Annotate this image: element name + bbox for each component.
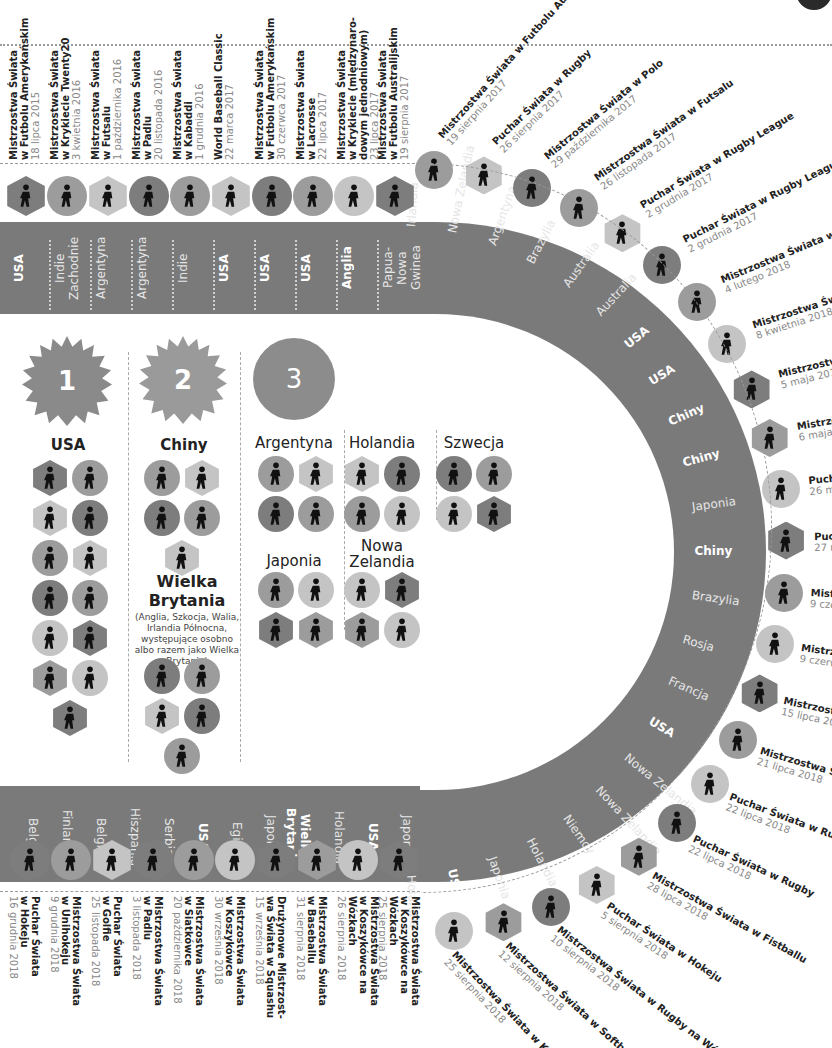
sport-icon <box>133 840 173 880</box>
sport-icon <box>344 572 380 608</box>
event-label: World Baseball Classic 22 marca 2017 <box>213 52 235 160</box>
sport-icon <box>32 660 68 696</box>
rank-3-badge: 3 <box>253 338 335 420</box>
sport-icon <box>258 572 294 608</box>
rank-1-badge: 1 <box>22 336 112 426</box>
rank-1-number: 1 <box>58 366 76 396</box>
rank-2b-country: Wielka Brytania <box>132 572 242 610</box>
event-title: Mistrzostwa Świata w Baseballu <box>306 896 328 1006</box>
rank-3-country-szwecja: Szwecja <box>432 434 516 452</box>
sport-icon <box>532 888 570 926</box>
event-label: Mistrzostwa Świata w Siatkówce 20 paździ… <box>172 896 205 1006</box>
athlete-icon <box>303 617 329 643</box>
sport-icon <box>435 912 473 950</box>
sport-icon <box>184 658 220 694</box>
athlete-icon <box>349 617 375 643</box>
sport-icon <box>344 496 380 532</box>
event-title: Puchar Ubera (badminton) <box>808 462 832 486</box>
rank-3-country-holandia: Holandia <box>340 434 424 452</box>
athlete-icon <box>441 501 467 527</box>
winner-country: Argentyna <box>94 232 126 304</box>
event-date: 19 sierpnia 2017 <box>399 76 410 160</box>
athlete-icon <box>37 585 63 611</box>
rank-1-country: USA <box>20 436 116 454</box>
event-date: 31 sierpnia 2018 <box>295 896 306 980</box>
athlete-icon <box>149 505 175 531</box>
winner-separator <box>336 240 338 310</box>
athlete-icon <box>189 465 215 491</box>
sport-icon <box>32 580 68 616</box>
sport-icon <box>10 840 50 880</box>
athlete-icon <box>626 844 652 870</box>
event-label: Mistrzostwa Świata w Piłce Nożnej15 lipc… <box>781 695 832 757</box>
event-title: Mistrzostwa Świata w Futbolu Amerykański… <box>8 18 30 160</box>
athlete-icon <box>441 918 467 944</box>
athlete-icon <box>13 183 39 209</box>
event-date: 9 czerwca 2018 <box>810 598 832 620</box>
event-label: Mistrzostwa Świata w Koszykówce na Wózka… <box>377 896 421 1006</box>
athlete-icon <box>169 545 195 571</box>
athlete-icon <box>349 577 375 603</box>
event-label: Puchar Ubera (badminton)26 maja 2018 <box>808 462 832 497</box>
event-label: Mistrzostwa Świata w Koszykówce na Wózka… <box>336 896 380 1006</box>
athlete-icon <box>77 465 103 491</box>
sport-icon <box>72 660 108 696</box>
athlete-icon <box>169 743 195 769</box>
athlete-icon <box>37 665 63 691</box>
event-label: Puchar Świata w Golfie 25 listopada 2018 <box>90 896 123 1006</box>
event-title: Mistrzostwa Świata w Padlu <box>142 896 164 1006</box>
sport-icon <box>32 540 68 576</box>
athlete-icon <box>54 183 80 209</box>
event-label: Mistrzostwa Świata w Koszykówce 30 wrześ… <box>213 896 246 1006</box>
athlete-icon <box>441 461 467 487</box>
sport-icon <box>184 500 220 536</box>
sport-icon <box>88 176 128 216</box>
winner-separator <box>295 240 297 310</box>
sport-icon <box>298 572 334 608</box>
athlete-icon <box>389 461 415 487</box>
athlete-icon <box>341 183 367 209</box>
event-title: Drużynowe Mistrzost- wa Świata w Squashu <box>265 896 287 1019</box>
event-date: 9 czerwca 2018 <box>799 652 832 687</box>
winner-separator <box>172 240 174 310</box>
event-date: 15 września 2018 <box>254 896 265 985</box>
event-label: Mistrzostwa Świata w Krykiecie Twenty20 … <box>49 52 82 160</box>
event-title: Mistrzostwa Świata w Koszykówce na Wózka… <box>347 896 380 1006</box>
event-title: Mistrzostwa Świata w Tenisie Stołowym <box>796 384 832 432</box>
sport-icon <box>334 176 374 216</box>
sport-icon <box>338 840 378 880</box>
sport-icon <box>144 500 180 536</box>
athlete-icon <box>77 665 103 691</box>
event-date: 30 września 2018 <box>213 896 224 985</box>
sport-icon <box>6 176 46 216</box>
athlete-icon <box>747 680 773 706</box>
event-date: 20 listopada 2016 <box>153 70 164 160</box>
athlete-icon <box>259 183 285 209</box>
winner-separator <box>254 240 256 310</box>
winner-separator <box>377 240 379 310</box>
winner-country: Papua-Nowa Gwinea <box>381 232 413 304</box>
athlete-icon <box>263 847 289 873</box>
event-date: 1 grudnia 2016 <box>194 83 205 160</box>
event-label: Mistrzostwa Świata w Krykiecie (międzyna… <box>336 52 380 160</box>
athlete-icon <box>136 183 162 209</box>
sport-icon <box>47 176 87 216</box>
rank-3-country-japonia: Japonia <box>252 552 336 570</box>
athlete-icon <box>345 847 371 873</box>
event-date: 9 grudnia 2018 <box>49 896 60 973</box>
event-title: Mistrzostwa Świata w Kabaddi <box>172 50 194 160</box>
event-date: 22 lipca 2017 <box>317 92 328 160</box>
event-label: Mistrzostwa Świata w Kabaddi 1 grudnia 2… <box>172 52 205 160</box>
sport-icon <box>252 176 292 216</box>
athlete-icon <box>222 847 248 873</box>
athlete-icon <box>218 183 244 209</box>
athlete-icon <box>481 501 507 527</box>
sport-icon <box>72 540 108 576</box>
event-title: Puchar Thomasa (badminton) <box>814 528 832 542</box>
sport-icon <box>51 840 91 880</box>
top-dashed-line <box>0 163 420 164</box>
athlete-icon <box>57 705 83 731</box>
athlete-icon <box>725 727 751 753</box>
event-date: 3 listopada 2018 <box>131 896 142 980</box>
sport-icon <box>170 176 210 216</box>
